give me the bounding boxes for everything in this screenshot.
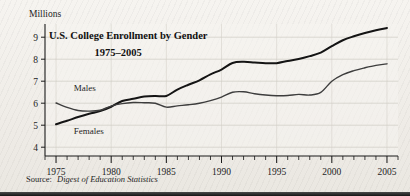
y-tick-label: 7 <box>33 77 38 87</box>
x-tick-label: 1990 <box>212 167 231 177</box>
y-tick-label: 8 <box>33 55 38 65</box>
x-tick-label: 1995 <box>267 167 286 177</box>
chart-title: U.S. College Enrollment by Gender <box>49 30 208 41</box>
college-enrollment-line-chart: 456789 1975198019851990199520002005 Male… <box>0 0 410 196</box>
y-tick-label: 5 <box>33 121 38 131</box>
chart-subtitle: 1975–2005 <box>94 47 141 58</box>
source-name: Digest of Education Statistics <box>56 174 159 184</box>
y-axis-tick-labels: 456789 <box>33 33 38 153</box>
gridlines <box>45 24 398 156</box>
x-tick-label: 2000 <box>322 167 341 177</box>
figure-page: 456789 1975198019851990199520002005 Male… <box>0 0 410 196</box>
y-tick-label: 4 <box>33 143 38 153</box>
source-line: Source: Digest of Education Statistics <box>26 174 159 184</box>
series-label-males: Males <box>74 83 96 93</box>
y-tick-label: 6 <box>33 99 38 109</box>
y-tick-label: 9 <box>33 33 38 43</box>
source-prefix: Source: <box>26 174 52 184</box>
chart-figure: 456789 1975198019851990199520002005 Male… <box>0 0 410 196</box>
y-axis-unit-label: Millions <box>29 9 62 19</box>
series-label-females: Females <box>74 126 104 136</box>
x-tick-label: 1985 <box>157 167 176 177</box>
x-tick-label: 2005 <box>377 167 396 177</box>
